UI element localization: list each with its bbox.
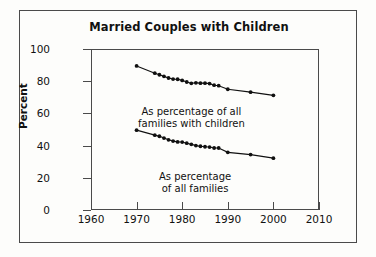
data-point [189, 142, 193, 146]
data-point [135, 64, 139, 68]
data-point [217, 146, 221, 150]
series-line [137, 66, 274, 95]
data-point [272, 93, 276, 97]
data-series [135, 64, 276, 97]
data-point [171, 139, 175, 143]
data-point [176, 77, 180, 81]
annotation-lower-line2: of all families [159, 183, 231, 195]
data-point [203, 145, 207, 149]
data-point [217, 84, 221, 88]
data-series [135, 128, 276, 160]
series-line [137, 130, 274, 158]
annotation-upper-line2: families with children [138, 118, 245, 130]
data-point [199, 144, 203, 148]
data-point [199, 81, 203, 85]
data-point [167, 138, 171, 142]
chart-figure: Married Couples with Children Percent 02… [19, 10, 357, 243]
annotation-upper-line1: As percentage of all [138, 106, 245, 118]
data-point [212, 146, 216, 150]
data-point [226, 87, 230, 91]
data-point [249, 153, 253, 157]
data-point [162, 136, 166, 140]
data-point [158, 73, 162, 77]
data-point [249, 90, 253, 94]
data-point [167, 76, 171, 80]
data-point [212, 83, 216, 87]
data-point [185, 141, 189, 145]
data-point [208, 145, 212, 149]
data-point [226, 150, 230, 154]
data-point [176, 140, 180, 144]
data-point [180, 140, 184, 144]
annotation-lower-series: As percentage of all families [159, 171, 231, 195]
data-point [162, 74, 166, 78]
data-point [189, 81, 193, 85]
annotation-lower-line1: As percentage [159, 171, 231, 183]
data-point [180, 78, 184, 82]
data-point [203, 81, 207, 85]
data-point [153, 133, 157, 137]
data-point [194, 81, 198, 85]
data-point [158, 134, 162, 138]
data-point [185, 80, 189, 84]
data-point [208, 82, 212, 86]
data-point [153, 71, 157, 75]
data-point [171, 77, 175, 81]
data-point [272, 156, 276, 160]
annotation-upper-series: As percentage of all families with child… [138, 106, 245, 130]
data-point [194, 144, 198, 148]
